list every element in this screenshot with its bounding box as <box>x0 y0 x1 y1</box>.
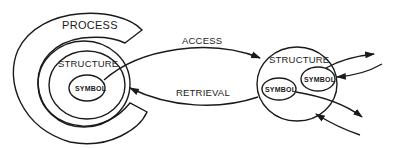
outgoing-arrow-top <box>326 54 374 68</box>
retrieval-label: RETRIEVAL <box>176 87 230 98</box>
outgoing-arrow-bottom <box>296 92 362 117</box>
incoming-arrow-bottom <box>316 114 360 135</box>
incoming-arrow-top <box>337 64 382 77</box>
structure-ring-outer <box>38 41 130 127</box>
structure-label-right: STRUCTURE <box>269 54 329 65</box>
process-c-shape <box>13 13 147 143</box>
access-arrow <box>104 48 260 80</box>
process-label: PROCESS <box>62 19 118 31</box>
access-label: ACCESS <box>182 35 222 46</box>
symbol-label-left: SYMBOL <box>75 85 107 92</box>
process-structure-symbol-diagram: PROCESS STRUCTURE SYMBOL ACCESS RETRIEVA… <box>0 0 397 148</box>
structure-label-left: STRUCTURE <box>58 58 118 69</box>
symbol-label-right-b: SYMBOL <box>304 76 336 83</box>
symbol-label-right-a: SYMBOL <box>265 86 297 93</box>
